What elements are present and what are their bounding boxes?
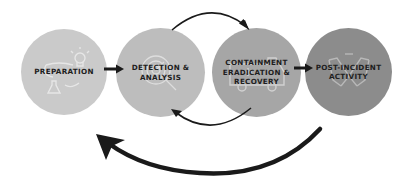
stage-label-preparation: PREPARATION: [34, 67, 93, 77]
stage-containment-eradication-recovery: CONTAINMENT ERADICATION & RECOVERY: [212, 28, 301, 117]
arrow-post-incident-to-preparation-return: [96, 129, 320, 173]
incident-response-lifecycle-diagram: PREPARATION DETECTION & ANALYSIS CONTAIN…: [0, 0, 417, 187]
stage-post-incident-activity: POST-INCIDENT ACTIVITY: [305, 28, 392, 116]
stage-label-containment: CONTAINMENT ERADICATION & RECOVERY: [223, 58, 290, 87]
stage-label-post-incident: POST-INCIDENT ACTIVITY: [316, 63, 382, 82]
stage-preparation: PREPARATION: [21, 29, 107, 115]
stage-detection-analysis: DETECTION & ANALYSIS: [116, 28, 205, 117]
stage-label-detection-analysis: DETECTION & ANALYSIS: [132, 63, 190, 82]
